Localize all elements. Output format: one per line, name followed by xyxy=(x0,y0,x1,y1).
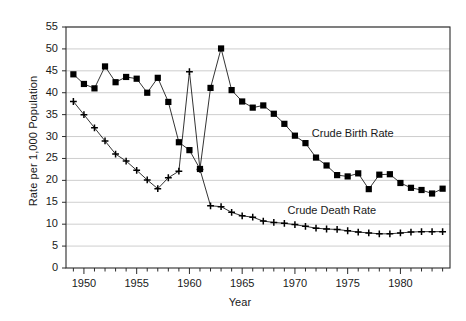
data-point-marker-square xyxy=(271,111,277,117)
data-point-marker-square xyxy=(440,186,446,192)
x-axis-title: Year xyxy=(180,296,300,308)
data-point-marker-plus xyxy=(397,230,404,237)
y-axis-tick-label: 5 xyxy=(24,239,58,251)
data-point-marker-plus xyxy=(281,220,288,227)
y-axis-tick-label: 50 xyxy=(24,42,58,54)
data-point-marker-square xyxy=(292,133,298,139)
data-point-marker-plus xyxy=(218,203,225,210)
data-point-marker-square xyxy=(207,85,213,91)
data-point-marker-square xyxy=(408,185,414,191)
data-point-marker-square xyxy=(102,63,108,69)
data-point-marker-square xyxy=(260,102,266,108)
data-point-marker-square xyxy=(387,171,393,177)
data-point-marker-square xyxy=(418,187,424,193)
data-point-marker-plus xyxy=(334,226,341,233)
chart-plot-area xyxy=(0,0,466,321)
data-point-marker-square xyxy=(334,172,340,178)
data-point-marker-plus xyxy=(270,219,277,226)
data-point-marker-plus xyxy=(239,212,246,219)
data-point-marker-plus xyxy=(429,228,436,235)
y-axis-tick-label: 0 xyxy=(24,261,58,273)
data-point-marker-plus xyxy=(260,218,267,225)
data-point-marker-plus xyxy=(313,225,320,232)
y-axis-tick-label: 25 xyxy=(24,151,58,163)
data-point-marker-square xyxy=(165,99,171,105)
plot-frame xyxy=(66,27,450,268)
data-point-marker-plus xyxy=(355,229,362,236)
data-point-marker-square xyxy=(250,105,256,111)
data-point-marker-square xyxy=(366,186,372,192)
data-point-marker-square xyxy=(239,98,245,104)
chart-container: Rate per 1,000 Population Year 051015202… xyxy=(0,0,466,321)
series-line-death xyxy=(73,72,442,234)
data-point-marker-square xyxy=(397,180,403,186)
data-point-marker-square xyxy=(134,76,140,82)
data-point-marker-square xyxy=(218,45,224,51)
data-point-marker-square xyxy=(70,71,76,77)
data-point-marker-square xyxy=(345,173,351,179)
data-point-marker-plus xyxy=(228,209,235,216)
data-point-marker-plus xyxy=(207,202,214,209)
y-axis-tick-label: 45 xyxy=(24,64,58,76)
data-point-marker-plus xyxy=(323,226,330,233)
data-point-marker-plus xyxy=(249,214,256,221)
data-point-marker-plus xyxy=(418,228,425,235)
x-axis-tick-label: 1980 xyxy=(380,277,420,289)
data-point-marker-plus xyxy=(186,68,193,75)
data-point-marker-square xyxy=(91,85,97,91)
data-point-marker-square xyxy=(281,121,287,127)
data-point-marker-square xyxy=(112,79,118,85)
data-point-marker-plus xyxy=(175,168,182,175)
data-point-marker-square xyxy=(155,75,161,81)
y-axis-tick-label: 35 xyxy=(24,108,58,120)
data-point-marker-square xyxy=(176,139,182,145)
y-axis-tick-label: 30 xyxy=(24,130,58,142)
data-point-marker-square xyxy=(376,172,382,178)
x-axis-tick-label: 1970 xyxy=(275,277,315,289)
data-point-marker-plus xyxy=(292,221,299,228)
y-axis-tick-label: 10 xyxy=(24,217,58,229)
data-point-marker-square xyxy=(186,147,192,153)
x-axis-tick-label: 1955 xyxy=(117,277,157,289)
y-axis-tick-label: 15 xyxy=(24,195,58,207)
series-label-crude-death-rate: Crude Death Rate xyxy=(288,204,377,216)
data-point-marker-square xyxy=(313,154,319,160)
data-point-marker-square xyxy=(81,81,87,87)
data-point-marker-square xyxy=(123,74,129,80)
data-point-marker-plus xyxy=(439,228,446,235)
data-point-marker-square xyxy=(144,90,150,96)
x-axis-tick-label: 1975 xyxy=(328,277,368,289)
data-point-marker-square xyxy=(429,190,435,196)
data-point-marker-plus xyxy=(376,230,383,237)
x-axis-tick-label: 1950 xyxy=(64,277,104,289)
y-axis-tick-label: 20 xyxy=(24,173,58,185)
data-point-marker-plus xyxy=(365,230,372,237)
data-point-marker-square xyxy=(323,162,329,168)
x-axis-tick-label: 1965 xyxy=(222,277,262,289)
data-point-marker-plus xyxy=(408,229,415,236)
y-axis-tick-label: 55 xyxy=(24,20,58,32)
data-point-marker-plus xyxy=(386,230,393,237)
data-point-marker-plus xyxy=(344,227,351,234)
data-point-marker-square xyxy=(355,170,361,176)
x-axis-tick-label: 1960 xyxy=(169,277,209,289)
data-point-marker-square xyxy=(229,87,235,93)
data-point-marker-square xyxy=(302,140,308,146)
y-axis-tick-label: 40 xyxy=(24,86,58,98)
series-label-crude-birth-rate: Crude Birth Rate xyxy=(312,127,394,139)
